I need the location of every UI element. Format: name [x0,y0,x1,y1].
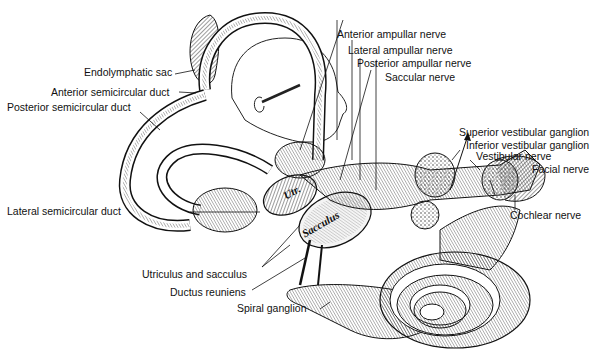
label-anterior-semicircular-duct: Anterior semicircular duct [51,86,169,98]
cochlea [380,252,530,348]
label-lateral-ampullar-nerve: Lateral ampullar nerve [348,44,452,56]
labyrinth-illustration [0,0,601,353]
label-anterior-ampullar-nerve: Anterior ampullar nerve [337,28,446,40]
label-posterior-semicircular-duct: Posterior semicircular duct [7,101,131,113]
head-profile-inset [232,38,347,142]
label-cochlear-nerve: Cochlear nerve [510,209,581,221]
label-spiral-ganglion: Spiral ganglion [237,302,306,314]
label-posterior-ampullar-nerve: Posterior ampullar nerve [357,57,471,69]
inner-ear-diagram: Endolymphatic sac Anterior semicircular … [0,0,601,353]
label-ductus-reuniens: Ductus reuniens [170,286,246,298]
label-facial-nerve: Facial nerve [532,163,589,175]
label-superior-vestibular-ganglion: Superior vestibular ganglion [459,126,589,138]
label-endolymphatic-sac: Endolymphatic sac [84,66,172,78]
label-vestibular-nerve: Vestibular nerve [476,150,551,162]
label-lateral-semicircular-duct: Lateral semicircular duct [7,205,121,217]
label-utriculus-and-sacculus: Utriculus and sacculus [142,268,247,280]
label-saccular-nerve: Saccular nerve [385,71,455,83]
